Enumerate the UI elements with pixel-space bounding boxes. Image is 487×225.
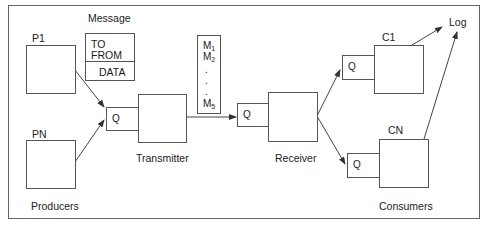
message-list-item-5: M5 <box>203 98 215 112</box>
message-list-box: M1 M2 . . . M5 <box>197 35 221 114</box>
producer-p1-box <box>26 45 76 94</box>
consumer-c1-box <box>374 45 424 94</box>
edge-c1-log <box>412 27 442 45</box>
cn-queue-label: Q <box>353 159 361 171</box>
cn-queue: Q <box>347 153 380 178</box>
transmitter-queue-label: Q <box>112 113 120 125</box>
receiver-queue: Q <box>237 103 269 127</box>
producers-label: Producers <box>31 200 79 212</box>
message-title: Message <box>88 12 131 24</box>
transmitter-queue: Q <box>106 107 139 131</box>
transmitter-box <box>138 94 187 143</box>
edge-cn-log <box>424 32 457 139</box>
c1-queue-label: Q <box>348 61 356 73</box>
message-list-ellipsis-2: . <box>205 77 208 85</box>
consumer-cn-box <box>379 139 429 188</box>
diagram-canvas: P1 PN Producers Message TO FROM DATA Q T… <box>0 0 487 225</box>
c1-label: C1 <box>382 31 395 43</box>
receiver-box <box>268 92 318 142</box>
edge-receiver-c1 <box>317 70 340 116</box>
message-field-from: FROM <box>91 49 122 61</box>
p1-label: P1 <box>32 32 45 44</box>
edge-pn-transmitter <box>75 120 104 162</box>
message-divider <box>86 61 134 62</box>
pn-label: PN <box>32 128 47 140</box>
receiver-label: Receiver <box>275 152 316 164</box>
message-list-ellipsis-1: . <box>205 66 208 74</box>
log-label: Log <box>449 16 467 28</box>
c1-queue: Q <box>342 55 375 80</box>
producer-pn-box <box>26 140 76 189</box>
message-list-item-2: M2 <box>203 51 215 65</box>
cn-label: CN <box>388 124 403 136</box>
receiver-queue-label: Q <box>243 109 251 121</box>
consumers-label: Consumers <box>379 200 433 212</box>
message-box: TO FROM DATA <box>85 33 135 81</box>
message-field-data: DATA <box>99 66 125 78</box>
message-list-ellipsis-3: . <box>205 88 208 96</box>
edge-receiver-cn <box>317 116 345 164</box>
transmitter-label: Transmitter <box>136 152 189 164</box>
